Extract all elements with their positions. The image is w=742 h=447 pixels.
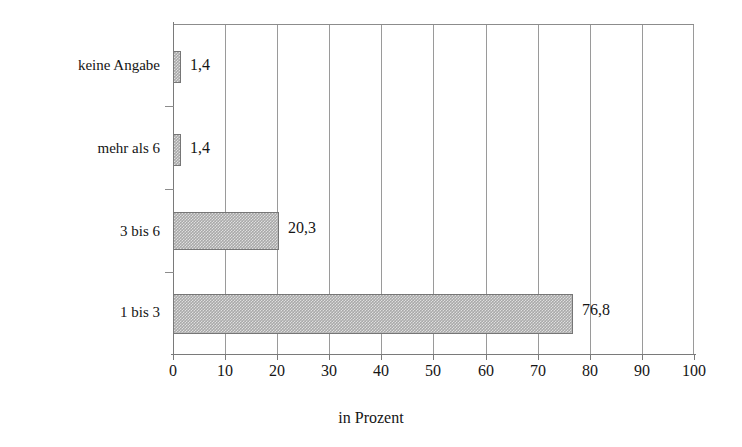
x-tick-label-80: 80: [560, 363, 620, 379]
x-tick-label-70: 70: [508, 363, 568, 379]
category-label-mehr-als-6: mehr als 6: [98, 141, 160, 156]
category-label-3-bis-6: 3 bis 6: [120, 224, 160, 239]
x-tick-label-60: 60: [456, 363, 516, 379]
category-label-1-bis-3: 1 bis 3: [120, 305, 160, 320]
category-label-keine-angabe: keine Angabe: [78, 58, 160, 73]
gridline-100: [693, 25, 694, 355]
x-axis-tick-60: [486, 354, 487, 360]
x-axis-tick-40: [381, 354, 382, 360]
x-tick-label-100: 100: [664, 363, 724, 379]
x-tick-label-40: 40: [351, 363, 411, 379]
x-axis-tick-70: [538, 354, 539, 360]
gridline-90: [642, 25, 643, 355]
y-axis-tick-3: [165, 272, 174, 273]
x-tick-label-50: 50: [403, 363, 463, 379]
y-axis-tick-1: [165, 106, 174, 107]
x-tick-label-90: 90: [612, 363, 672, 379]
x-axis-tick-10: [225, 354, 226, 360]
y-axis-tick-2: [165, 189, 174, 190]
x-axis-tick-100: [694, 354, 695, 360]
x-axis-title: in Prozent: [0, 410, 742, 426]
x-axis-tick-90: [642, 354, 643, 360]
x-axis-tick-0: [173, 354, 174, 360]
x-axis-tick-80: [590, 354, 591, 360]
bar-mehr-als-6: [173, 134, 181, 166]
bar-value-keine-angabe: 1,4: [190, 57, 210, 73]
bar-value-1-bis-3: 76,8: [582, 302, 610, 318]
x-axis-tick-50: [433, 354, 434, 360]
x-axis-tick-20: [277, 354, 278, 360]
x-tick-label-30: 30: [299, 363, 359, 379]
bar-keine-angabe: [173, 51, 181, 83]
bar-chart: keine Angabe mehr als 6 3 bis 6 1 bis 3 …: [0, 0, 742, 447]
plot-area: [173, 24, 694, 354]
x-axis-tick-30: [329, 354, 330, 360]
x-tick-label-10: 10: [195, 363, 255, 379]
x-tick-label-0: 0: [143, 363, 203, 379]
bar-3-bis-6: [173, 212, 279, 250]
x-tick-label-20: 20: [247, 363, 307, 379]
bar-value-3-bis-6: 20,3: [288, 220, 316, 236]
bar-1-bis-3: [173, 294, 573, 334]
bar-value-mehr-als-6: 1,4: [190, 140, 210, 156]
